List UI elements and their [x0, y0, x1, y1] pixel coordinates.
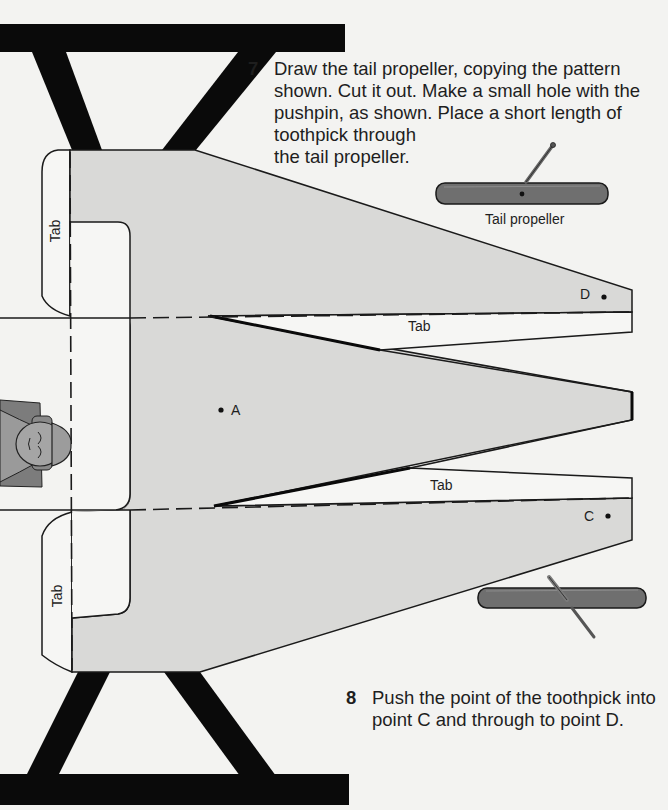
step-8-number: 8 [346, 687, 356, 709]
bottom-frame-bar [0, 774, 349, 805]
step-7-number: 7 [248, 58, 258, 80]
bottom-frame-right-leg [164, 672, 276, 776]
top-frame-bar [0, 24, 345, 52]
center-cutout [70, 222, 130, 512]
step-7-line: the tail propeller. [274, 146, 654, 168]
step-7-text: Draw the tail propeller, copying the pat… [274, 58, 654, 168]
tail-propeller-caption: Tail propeller [485, 211, 564, 227]
center-cutout-lower-fill [72, 510, 130, 618]
tab-label-right-top: Tab [408, 318, 431, 334]
step-8-line: Push the point of the toothpick into [372, 687, 662, 709]
tab-label-left-top: Tab [47, 220, 63, 243]
top-frame-right-leg [162, 52, 276, 150]
tail-propeller-hole [520, 192, 525, 197]
point-c-label: C [584, 508, 594, 524]
bottom-frame [0, 672, 349, 805]
toothpick-bottom [572, 608, 594, 637]
step-8-line: point C and through to point D. [372, 709, 662, 731]
top-frame-left-leg [32, 52, 102, 150]
point-d-label: D [580, 286, 590, 302]
step-8-text: Push the point of the toothpick into poi… [372, 687, 662, 731]
tab-label-right-bottom: Tab [430, 477, 453, 493]
step-7-line: pushpin, as shown. Place a short length … [274, 102, 654, 124]
point-a-dot [218, 407, 223, 412]
step-7-line: shown. Cut it out. Make a small hole wit… [274, 80, 654, 102]
step-7-line: toothpick through [274, 124, 654, 146]
tab-label-left-bottom: Tab [49, 585, 65, 608]
step-7-line: Draw the tail propeller, copying the pat… [274, 58, 654, 80]
propeller-with-toothpick [478, 577, 646, 637]
pilot-figure [0, 400, 71, 487]
point-d-dot [601, 294, 606, 299]
point-a-label: A [231, 402, 240, 418]
pilot-helmet [52, 423, 71, 466]
point-c-dot [605, 513, 610, 518]
bottom-frame-left-leg [26, 672, 110, 776]
